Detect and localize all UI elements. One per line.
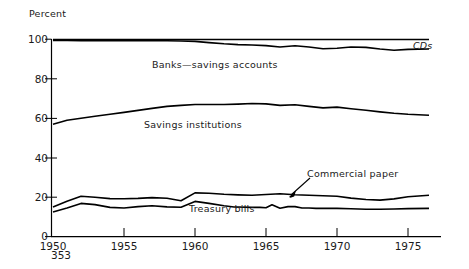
series-label-treasury-bills: Treasury bills xyxy=(189,203,255,214)
cds-text: CDs xyxy=(413,40,433,51)
chart-figure: Percent 100 80 60 40 20 0 1950 1955 1960… xyxy=(0,0,469,269)
series-label-savings-institutions: Savings institutions xyxy=(144,119,242,130)
series-label-commercial-paper: Commercial paper xyxy=(307,168,398,179)
series-label-cds: CDs xyxy=(413,40,433,51)
chart-plot-area xyxy=(0,0,469,269)
series-label-banks-savings-accounts: Banks—savings accounts xyxy=(152,59,278,70)
page-number: 353 xyxy=(51,249,71,261)
series-line-banks-savings-accounts xyxy=(53,40,429,50)
x-tick-marks xyxy=(124,228,408,237)
